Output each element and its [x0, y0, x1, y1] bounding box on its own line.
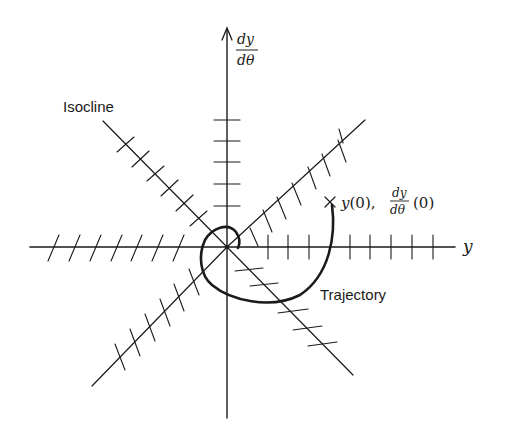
- ticks-upper-right-diagonal: [250, 129, 346, 246]
- isocline-upper-left: [103, 121, 227, 247]
- x-axis-label: y: [462, 236, 473, 256]
- y-axis-label-numerator: dy: [237, 31, 255, 47]
- origin-point: [225, 245, 229, 249]
- y-axis-label-denominator: dθ: [237, 52, 255, 68]
- isocline-upper-right: [227, 120, 365, 247]
- ticks-left-axis: [48, 235, 184, 261]
- initial-point-label-prefix: y(0),: [340, 194, 376, 212]
- initial-point-label-frac-den: dθ: [390, 203, 406, 217]
- initial-point-label-frac-num: dy: [392, 186, 407, 200]
- phase-plane-diagram: dy dθ y Isocline Trajectory y(0), dy dθ …: [0, 0, 505, 436]
- trajectory-label: Trajectory: [320, 286, 387, 303]
- initial-point-marker-icon: [325, 197, 335, 207]
- initial-point-label-suffix: (0): [413, 194, 434, 212]
- isocline-label: Isocline: [63, 98, 114, 115]
- isocline-lower-left: [92, 247, 227, 386]
